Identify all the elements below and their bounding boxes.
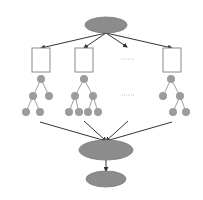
- output-ellipse: [86, 171, 126, 187]
- output-ellipse-shape: [86, 171, 126, 187]
- tree: [22, 75, 53, 116]
- document-box: [75, 48, 93, 72]
- tree-node: [167, 75, 175, 83]
- tree-node: [36, 108, 44, 116]
- ellipsis-dot: [128, 59, 129, 60]
- ellipsis-dots: [122, 59, 135, 96]
- document-box: [163, 48, 181, 72]
- ellipsis-dot: [133, 95, 134, 96]
- converge-arrows: [40, 121, 172, 141]
- tree-node: [159, 92, 167, 100]
- tree-node: [65, 108, 73, 116]
- tree-node: [75, 108, 83, 116]
- tree-node: [169, 108, 177, 116]
- tree-node: [89, 92, 97, 100]
- tree: [65, 75, 102, 116]
- aggregate-ellipse: [79, 140, 133, 160]
- tree-node: [94, 108, 102, 116]
- ellipsis-dot: [126, 59, 127, 60]
- document-boxes: [32, 48, 181, 72]
- top-arrow: [106, 33, 172, 48]
- top-arrow: [41, 33, 106, 48]
- ellipsis-dot: [131, 95, 132, 96]
- tree-node: [37, 75, 45, 83]
- ellipsis-dot: [124, 59, 125, 60]
- ellipsis-dot: [131, 59, 132, 60]
- tree-node: [22, 108, 30, 116]
- ellipsis-dot: [128, 95, 129, 96]
- tree-node: [176, 92, 184, 100]
- hierarchy-diagram: [0, 0, 203, 200]
- top-arrows: [41, 33, 172, 48]
- root-ellipse-shape: [85, 17, 127, 33]
- tree-node: [84, 108, 92, 116]
- aggregate-ellipse-shape: [79, 140, 133, 160]
- tree-node: [182, 108, 190, 116]
- tree-node: [45, 92, 53, 100]
- tree: [159, 75, 190, 116]
- tree-node: [71, 92, 79, 100]
- ellipsis-dot: [133, 59, 134, 60]
- ellipsis-dot: [122, 59, 123, 60]
- root-ellipse: [85, 17, 127, 33]
- tree-node: [29, 92, 37, 100]
- trees: [22, 75, 190, 116]
- ellipsis-dot: [126, 95, 127, 96]
- ellipsis-dot: [122, 95, 123, 96]
- tree-node: [80, 75, 88, 83]
- document-box: [32, 48, 50, 72]
- ellipsis-dot: [124, 95, 125, 96]
